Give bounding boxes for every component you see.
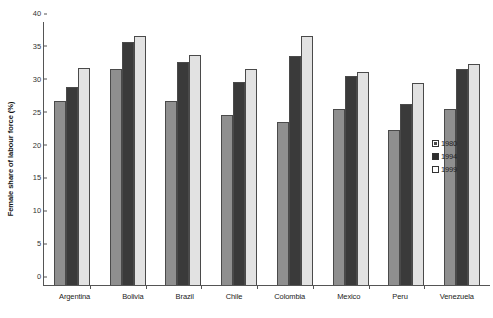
y-axis-tick-label: 10: [33, 206, 44, 215]
y-axis-tick-label: 35: [33, 41, 44, 50]
y-axis-tick-label: 40: [33, 9, 44, 18]
bar-argentina-1980: [54, 101, 66, 285]
legend: 198019941999: [432, 139, 457, 174]
bar-argentina-1999: [78, 68, 90, 285]
y-axis-tick: 40: [33, 9, 44, 18]
legend-swatch-1980: [432, 140, 439, 147]
x-axis-tick-mark: [90, 285, 91, 289]
bar-mexico-1999: [357, 72, 369, 285]
x-axis-label-bolivia: Bolivia: [122, 292, 143, 301]
y-axis-tick-label: 0: [37, 272, 44, 281]
y-axis-tick: 20: [33, 140, 44, 149]
bar-chile-1999: [245, 69, 257, 285]
bar-chile-1980: [221, 115, 233, 285]
x-axis-tick-mark: [313, 285, 314, 289]
bar-colombia-1999: [301, 36, 313, 285]
x-axis-tick-mark: [201, 285, 202, 289]
bar-venezuela-1980: [444, 109, 456, 285]
legend-item-1980: 1980: [432, 139, 457, 148]
bar-chart: Female share of labour force (%) 4035302…: [0, 0, 493, 318]
x-axis-tick-mark: [369, 285, 370, 289]
y-axis-tick: 30: [33, 74, 44, 83]
y-axis-tick: 10: [33, 206, 44, 215]
bar-group: [333, 22, 369, 285]
x-axis-tick-mark: [424, 285, 425, 289]
bar-mexico-1994: [345, 76, 357, 285]
x-axis-label-peru: Peru: [392, 292, 407, 301]
legend-label-1994: 1994: [441, 152, 457, 161]
bar-colombia-1994: [289, 56, 301, 285]
bar-chile-1994: [233, 82, 245, 285]
bar-group: [221, 22, 257, 285]
bar-brazil-1980: [165, 101, 177, 285]
x-axis-label-argentina: Argentina: [59, 292, 90, 301]
bar-groups: [44, 22, 490, 285]
bar-venezuela-1999: [468, 64, 480, 285]
y-axis-tick: 0: [37, 272, 44, 281]
x-axis-label-colombia: Colombia: [274, 292, 305, 301]
y-axis-tick-label: 5: [37, 239, 44, 248]
y-axis-tick-label: 15: [33, 173, 44, 182]
bar-group: [165, 22, 201, 285]
y-axis-tick-label: 20: [33, 140, 44, 149]
bar-mexico-1980: [333, 109, 345, 285]
bar-peru-1999: [412, 83, 424, 285]
bar-bolivia-1994: [122, 42, 134, 285]
bar-brazil-1999: [189, 55, 201, 285]
legend-swatch-1999: [432, 166, 439, 173]
y-axis-tick: 5: [37, 239, 44, 248]
bar-group: [388, 22, 424, 285]
bar-argentina-1994: [66, 87, 78, 285]
y-axis-title: Female share of labour force (%): [6, 59, 15, 259]
x-axis-label-brazil: Brazil: [176, 292, 194, 301]
y-axis-tick: 25: [33, 107, 44, 116]
bar-brazil-1994: [177, 62, 189, 285]
bar-venezuela-1994: [456, 69, 468, 285]
legend-label-1980: 1980: [441, 139, 457, 148]
x-axis-tick-mark: [257, 285, 258, 289]
x-axis-label-venezuela: Venezuela: [440, 292, 474, 301]
bar-group: [277, 22, 313, 285]
x-axis-label-mexico: Mexico: [337, 292, 360, 301]
y-axis-tick-label: 25: [33, 107, 44, 116]
legend-label-1999: 1999: [441, 165, 457, 174]
bar-bolivia-1999: [134, 36, 146, 285]
legend-item-1994: 1994: [432, 152, 457, 161]
legend-item-1999: 1999: [432, 165, 457, 174]
x-axis-tick-mark: [146, 285, 147, 289]
bar-peru-1980: [388, 130, 400, 285]
plot-area: 4035302520151050: [43, 22, 490, 286]
y-axis-tick-label: 30: [33, 74, 44, 83]
y-axis-tick: 35: [33, 41, 44, 50]
y-axis-tick: 15: [33, 173, 44, 182]
y-axis-tick-mark: [44, 13, 47, 14]
bar-group: [54, 22, 90, 285]
x-axis-label-chile: Chile: [226, 292, 243, 301]
bar-peru-1994: [400, 104, 412, 285]
bar-colombia-1980: [277, 122, 289, 285]
x-axis-labels: ArgentinaBoliviaBrazilChileColombiaMexic…: [43, 292, 490, 308]
bar-group: [110, 22, 146, 285]
legend-swatch-1994: [432, 153, 439, 160]
bar-bolivia-1980: [110, 69, 122, 285]
